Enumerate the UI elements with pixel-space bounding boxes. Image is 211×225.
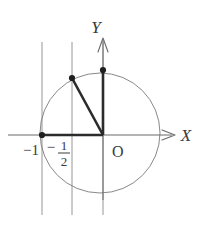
unit-circle-figure: Y X O −1 − 1 2 xyxy=(0,0,211,225)
point-top xyxy=(100,67,106,73)
y-axis-label: Y xyxy=(91,18,102,37)
figure-background xyxy=(0,0,211,225)
point-minus-one xyxy=(39,132,45,138)
origin-label: O xyxy=(112,143,124,160)
x-axis-label: X xyxy=(180,126,192,145)
tick-label-minus-one-half-denominator: 2 xyxy=(61,154,68,169)
tick-label-minus-one: −1 xyxy=(23,142,39,158)
tick-label-minus-one-half-sign: − xyxy=(47,139,55,155)
tick-label-minus-one-half-numerator: 1 xyxy=(61,138,68,153)
point-upper-left xyxy=(69,75,75,81)
